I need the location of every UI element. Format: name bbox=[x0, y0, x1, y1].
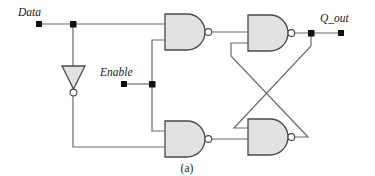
q-out-branch-junction-dot bbox=[308, 30, 315, 37]
nand-gate-top-left[interactable] bbox=[165, 14, 212, 50]
nand-bottom-right-body bbox=[248, 119, 288, 155]
nand-top-left-body bbox=[165, 14, 205, 50]
figure-caption: (a) bbox=[181, 162, 194, 175]
nand-top-left-bubble-icon bbox=[205, 29, 212, 36]
circuit-diagram-svg: Data Enable Q_out (a) bbox=[0, 0, 375, 176]
nand-top-right-body bbox=[248, 15, 288, 51]
nand-top-right-bubble-icon bbox=[288, 30, 295, 37]
nand-bottom-left-bubble-icon bbox=[205, 136, 212, 143]
q-out-label: Q_out bbox=[320, 12, 350, 24]
data-input-terminal-dot[interactable] bbox=[36, 21, 42, 27]
wire-inverter-to-nand-bottom-left bbox=[73, 96, 165, 147]
nand-bottom-right-bubble-icon bbox=[288, 134, 295, 141]
inverter-triangle bbox=[62, 66, 85, 89]
enable-label: Enable bbox=[99, 66, 133, 78]
enable-branch-junction-dot bbox=[149, 81, 156, 88]
nand-gate-bottom-left[interactable] bbox=[165, 121, 212, 157]
nand-gate-bottom-right[interactable] bbox=[248, 119, 295, 155]
wire-enable-to-nand-top-left bbox=[152, 40, 165, 84]
q-out-output-terminal-dot[interactable] bbox=[338, 30, 344, 36]
wire-enable-to-nand-bottom-left bbox=[152, 84, 165, 131]
data-label: Data bbox=[17, 6, 41, 18]
data-branch-junction-dot bbox=[70, 21, 77, 28]
inverter[interactable] bbox=[62, 66, 85, 96]
circuit-figure: Data Enable Q_out (a) bbox=[0, 0, 375, 176]
inverter-bubble-icon bbox=[70, 89, 77, 96]
nand-bottom-left-body bbox=[165, 121, 205, 157]
enable-input-terminal-dot[interactable] bbox=[121, 81, 127, 87]
nand-gate-top-right[interactable] bbox=[248, 15, 295, 51]
